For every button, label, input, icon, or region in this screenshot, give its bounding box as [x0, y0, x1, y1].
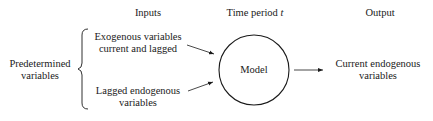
- lagged-line2: variables: [88, 97, 188, 109]
- model-label: Model: [224, 64, 284, 76]
- time-variable: t: [280, 7, 283, 18]
- predetermined-line2: variables: [5, 70, 75, 82]
- lagged-arrow: [188, 82, 213, 91]
- exogenous-arrow: [187, 45, 214, 54]
- header-time-period: Time period t: [215, 7, 295, 19]
- exogenous-line1: Exogenous variables: [88, 31, 188, 43]
- brace-icon: [78, 29, 88, 109]
- output-line1: Current endogenous: [328, 58, 428, 70]
- output-line2: variables: [328, 70, 428, 82]
- header-output: Output: [355, 7, 405, 19]
- exogenous-label: Exogenous variables current and lagged: [88, 31, 188, 55]
- lagged-label: Lagged endogenous variables: [88, 85, 188, 109]
- header-inputs: Inputs: [118, 7, 178, 19]
- predetermined-line1: Predetermined: [5, 58, 75, 70]
- output-label: Current endogenous variables: [328, 58, 428, 82]
- predetermined-label: Predetermined variables: [5, 58, 75, 82]
- lagged-line1: Lagged endogenous: [88, 85, 188, 97]
- exogenous-line2: current and lagged: [88, 43, 188, 55]
- time-period-label: Time period: [227, 7, 278, 18]
